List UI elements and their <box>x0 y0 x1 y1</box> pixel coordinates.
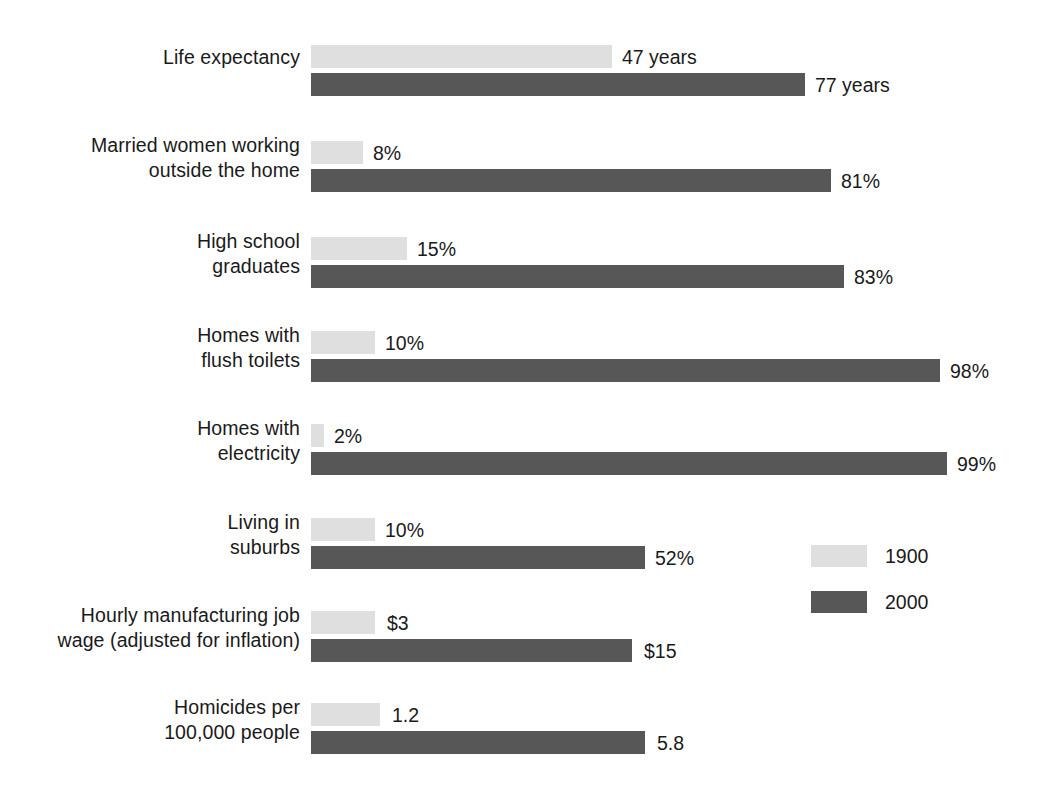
legend-item-1900: 1900 <box>811 545 1011 567</box>
row-category-label: Married women working outside the home <box>10 133 300 183</box>
bar-value-2000: 52% <box>655 546 694 569</box>
row-category-label: High school graduates <box>10 229 300 279</box>
bar-1900 <box>311 424 324 447</box>
bar-1900 <box>311 237 407 260</box>
bar-2000 <box>311 169 831 192</box>
bar-2000 <box>311 546 645 569</box>
legend-item-2000: 2000 <box>811 591 1011 613</box>
legend-label-2000: 2000 <box>885 591 928 613</box>
row-category-label: Hourly manufacturing job wage (adjusted … <box>10 603 300 653</box>
bar-value-2000: 77 years <box>815 73 890 96</box>
legend-swatch-2000-icon <box>811 591 867 613</box>
bar-chart: Life expectancy 47 years 77 years Marrie… <box>0 0 1049 791</box>
bar-2000 <box>311 359 940 382</box>
bar-1900 <box>311 331 375 354</box>
bar-2000 <box>311 265 844 288</box>
bar-value-2000: 83% <box>854 265 893 288</box>
bar-value-1900: 10% <box>385 331 424 354</box>
bar-value-2000: $15 <box>644 639 677 662</box>
bar-2000 <box>311 73 805 96</box>
bar-value-1900: 8% <box>373 141 401 164</box>
bar-1900 <box>311 141 363 164</box>
row-category-label: Living in suburbs <box>10 510 300 560</box>
row-category-label: Homes with flush toilets <box>10 323 300 373</box>
bar-value-1900: 2% <box>334 424 362 447</box>
bar-value-1900: 15% <box>417 237 456 260</box>
bar-value-2000: 81% <box>841 169 880 192</box>
bar-value-2000: 5.8 <box>657 731 684 754</box>
bar-1900 <box>311 45 612 68</box>
bar-value-2000: 98% <box>950 359 989 382</box>
legend-swatch-1900-icon <box>811 545 867 567</box>
bar-value-1900: 1.2 <box>392 703 419 726</box>
bar-value-1900: 10% <box>385 518 424 541</box>
bar-value-1900: 47 years <box>622 45 697 68</box>
bar-2000 <box>311 731 645 754</box>
bar-2000 <box>311 452 947 475</box>
legend-label-1900: 1900 <box>885 545 928 567</box>
row-category-label: Homes with electricity <box>10 416 300 466</box>
chart-legend: 1900 2000 <box>811 545 1011 613</box>
bar-1900 <box>311 703 380 726</box>
bar-1900 <box>311 611 375 634</box>
bar-2000 <box>311 639 632 662</box>
row-category-label: Life expectancy <box>10 45 300 70</box>
bar-value-2000: 99% <box>957 452 996 475</box>
bar-1900 <box>311 518 375 541</box>
bar-value-1900: $3 <box>387 611 409 634</box>
row-category-label: Homicides per 100,000 people <box>10 695 300 745</box>
